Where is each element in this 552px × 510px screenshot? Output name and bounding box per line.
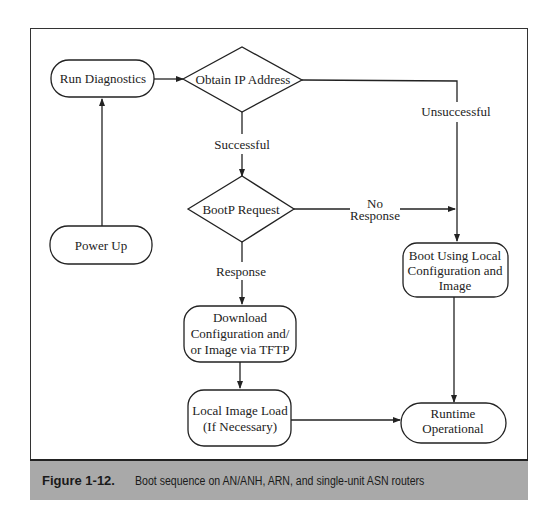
label-download-line1: Download (213, 310, 268, 325)
label-runtime-line1: Runtime (431, 406, 476, 421)
figure-caption-text: Boot sequence on AN/ANH, ARN, and single… (135, 474, 424, 488)
label-download-line3: or Image via TFTP (190, 342, 289, 357)
label-power-up: Power Up (75, 238, 127, 253)
flowchart-canvas: Run Diagnostics Obtain IP Address BootP … (0, 0, 552, 510)
label-localload-line1: Local Image Load (192, 403, 288, 418)
figure-caption: Figure 1-12. Boot sequence on AN/ANH, AR… (30, 459, 528, 500)
label-bootlocal-line2: Configuration and (408, 263, 503, 278)
label-runtime-line2: Operational (422, 421, 484, 436)
label-run-diagnostics: Run Diagnostics (60, 71, 146, 86)
label-bootlocal-line3: Image (439, 278, 472, 293)
label-download-line2: Configuration and/ (191, 326, 290, 341)
edge-label-successful: Successful (214, 137, 270, 152)
label-bootp-request: BootP Request (202, 202, 280, 217)
label-localload-line2: (If Necessary) (203, 419, 277, 434)
edge-label-response-2: Response (350, 208, 400, 223)
label-bootlocal-line1: Boot Using Local (409, 248, 502, 263)
edge-label-unsuccessful: Unsuccessful (421, 104, 491, 119)
figure-number: Figure 1-12. (42, 473, 115, 488)
node-local-image-load (188, 390, 291, 446)
edge-label-response: Response (216, 264, 266, 279)
flowchart-figure: Run Diagnostics Obtain IP Address BootP … (0, 0, 552, 510)
label-obtain-ip: Obtain IP Address (196, 72, 291, 87)
